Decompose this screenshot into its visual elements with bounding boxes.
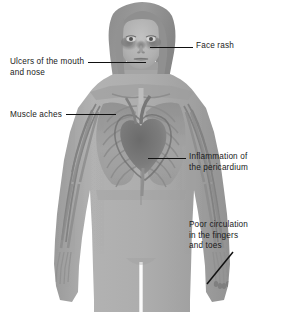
leader-line-ulcers bbox=[88, 62, 146, 63]
leader-line-pericarditis bbox=[148, 158, 186, 159]
callout-label-pericarditis: Inflammation of the pericardium bbox=[189, 152, 248, 173]
callout-label-face-rash: Face rash bbox=[196, 41, 234, 52]
callout-label-poor-circulation: Poor circulation in the fingers and toes bbox=[189, 220, 248, 252]
leader-line-face-rash bbox=[150, 47, 193, 48]
callout-label-ulcers: Ulcers of the mouth and nose bbox=[10, 57, 84, 78]
lupus-symptoms-diagram: Face rash Ulcers of the mouth and nose M… bbox=[0, 0, 283, 312]
callout-label-muscle-aches: Muscle aches bbox=[10, 110, 62, 121]
leader-line-muscle-aches bbox=[66, 114, 116, 115]
